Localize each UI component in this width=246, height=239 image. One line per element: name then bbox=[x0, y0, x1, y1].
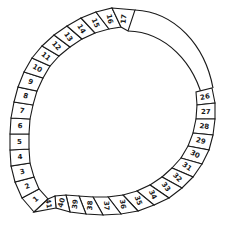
segment-label: 5 bbox=[17, 138, 22, 146]
numbered-segments: 1234567891011121314151617262728293031323… bbox=[10, 8, 215, 215]
segment-label: 39 bbox=[71, 199, 80, 210]
segment-label: 37 bbox=[102, 201, 111, 211]
segment-label: 27 bbox=[201, 108, 211, 116]
unnumbered-connecting-band bbox=[128, 10, 213, 104]
segment-label: 4 bbox=[17, 153, 22, 161]
segment-label: 6 bbox=[17, 122, 22, 130]
segment-label: 36 bbox=[118, 199, 128, 210]
segment-label: 28 bbox=[199, 122, 210, 131]
segment-label: 38 bbox=[86, 200, 95, 210]
segment-label: 17 bbox=[120, 14, 129, 25]
segmented-ring-diagram: 1234567891011121314151617262728293031323… bbox=[0, 0, 246, 239]
